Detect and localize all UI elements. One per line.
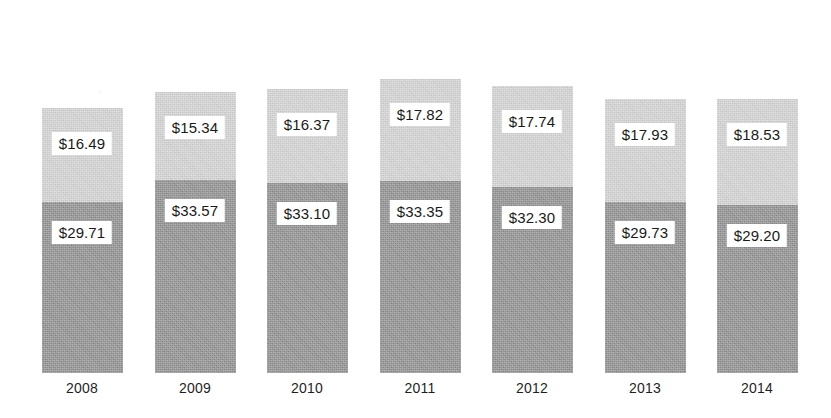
value-label-upper-2011: $17.82: [390, 103, 450, 126]
x-axis-label-2011: 2011: [380, 379, 461, 397]
x-axis-label-2008: 2008: [42, 379, 123, 397]
bar-segment-upper-2010: [267, 89, 348, 183]
x-axis-label-2010: 2010: [267, 379, 348, 397]
bar-segment-upper-2014: [717, 99, 798, 205]
x-axis-label-2014: 2014: [717, 379, 798, 397]
bar-2011: $33.35$17.82: [380, 79, 461, 373]
x-axis-label-2012: 2012: [492, 379, 573, 397]
value-label-upper-2012: $17.74: [502, 110, 562, 133]
value-label-lower-2011: $33.35: [390, 200, 450, 223]
value-label-upper-2010: $16.37: [277, 113, 337, 136]
plot-area: $29.71$16.492008$33.57$15.342009$33.10$1…: [0, 0, 831, 418]
value-label-lower-2014: $29.20: [727, 224, 787, 247]
bar-2010: $33.10$16.37: [267, 89, 348, 373]
value-label-upper-2009: $15.34: [165, 116, 225, 139]
bar-2009: $33.57$15.34: [155, 92, 236, 373]
value-label-lower-2008: $29.71: [52, 221, 112, 244]
bar-segment-upper-2012: [492, 86, 573, 188]
bar-2012: $32.30$17.74: [492, 86, 573, 374]
bar-segment-upper-2013: [605, 99, 686, 202]
value-label-upper-2008: $16.49: [52, 132, 112, 155]
bar-segment-upper-2011: [380, 79, 461, 181]
bar-segment-upper-2008: [42, 108, 123, 203]
value-label-upper-2013: $17.93: [615, 123, 675, 146]
stacked-bar-chart: $29.71$16.492008$33.57$15.342009$33.10$1…: [0, 0, 831, 418]
bar-2013: $29.73$17.93: [605, 99, 686, 373]
bar-2008: $29.71$16.49: [42, 108, 123, 373]
x-axis-label-2009: 2009: [155, 379, 236, 397]
x-axis-label-2013: 2013: [605, 379, 686, 397]
value-label-lower-2013: $29.73: [615, 221, 675, 244]
cropped-caption: [0, 408, 831, 418]
value-label-lower-2009: $33.57: [165, 199, 225, 222]
value-label-lower-2012: $32.30: [502, 206, 562, 229]
value-label-lower-2010: $33.10: [277, 202, 337, 225]
value-label-upper-2014: $18.53: [727, 123, 787, 146]
bar-2014: $29.20$18.53: [717, 99, 798, 373]
